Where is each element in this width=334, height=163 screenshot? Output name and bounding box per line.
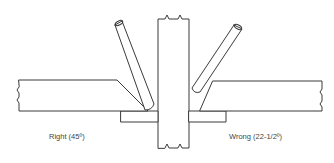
- center-plate: [158, 15, 189, 148]
- right-backing-bar: [189, 111, 226, 122]
- wrong-method-label: Wrong (22-1/2º): [229, 132, 282, 141]
- right-method-label: Right (45º): [49, 132, 85, 141]
- right-plate: [200, 81, 322, 111]
- left-backing-bar: [121, 111, 158, 122]
- left-plate: [17, 80, 148, 111]
